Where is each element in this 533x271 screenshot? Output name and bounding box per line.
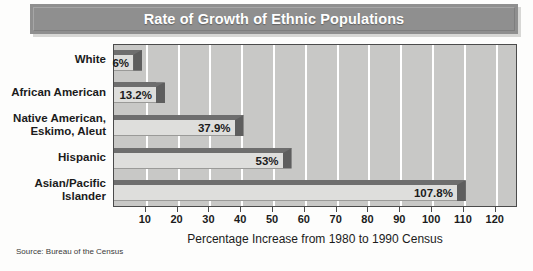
bar-value-label: 6%: [112, 55, 129, 71]
gridline: [496, 45, 498, 206]
bar: 13.2%: [114, 82, 165, 103]
x-axis-title: Percentage Increase from 1980 to 1990 Ce…: [113, 232, 517, 246]
bar-side-face: [457, 180, 466, 201]
x-tick-mark: [399, 207, 400, 212]
category-label-line: Asian/Pacific: [0, 177, 106, 190]
bar: 53%: [114, 148, 292, 169]
bar: 107.8%: [114, 180, 466, 201]
x-tick-mark: [272, 207, 273, 212]
category-label-line: African American: [0, 86, 106, 99]
category-label-line: White: [0, 53, 106, 66]
plot-area: 6%13.2%37.9%53%107.8%: [113, 44, 517, 207]
category-label-line: Hispanic: [0, 151, 106, 164]
bar: 6%: [114, 50, 142, 71]
category-label-line: Islander: [0, 190, 106, 203]
bar-value-label: 53%: [256, 153, 279, 169]
bar-front-face: [114, 185, 457, 201]
x-tick-mark: [208, 207, 209, 212]
category-label-line: Eskimo, Aleut: [0, 125, 106, 138]
x-tick-mark: [463, 207, 464, 212]
x-tick-mark: [367, 207, 368, 212]
bar-side-face: [235, 115, 244, 136]
x-tick-label: 120: [475, 213, 515, 225]
x-tick-mark: [304, 207, 305, 212]
bar-side-face: [133, 50, 142, 71]
title-banner: Rate of Growth of Ethnic Populations: [30, 4, 518, 34]
category-label: African American: [0, 86, 106, 99]
x-tick-mark: [240, 207, 241, 212]
x-tick-mark: [145, 207, 146, 212]
bar-value-label: 107.8%: [414, 185, 453, 201]
chart-figure: Rate of Growth of Ethnic Populations 6%1…: [0, 0, 533, 271]
category-label-line: Native American,: [0, 112, 106, 125]
bar-side-face: [283, 148, 292, 169]
x-tick-mark: [431, 207, 432, 212]
x-tick-mark: [177, 207, 178, 212]
x-tick-mark: [336, 207, 337, 212]
category-label: Native American,Eskimo, Aleut: [0, 112, 106, 137]
bar-value-label: 37.9%: [198, 120, 231, 136]
x-tick-mark: [495, 207, 496, 212]
chart-title: Rate of Growth of Ethnic Populations: [30, 4, 518, 34]
bar-value-label: 13.2%: [119, 87, 152, 103]
category-label: Asian/PacificIslander: [0, 177, 106, 202]
source-note: Source: Bureau of the Census: [16, 247, 123, 256]
bar-side-face: [156, 82, 165, 103]
category-label: Hispanic: [0, 151, 106, 164]
bar: 37.9%: [114, 115, 244, 136]
category-label: White: [0, 53, 106, 66]
